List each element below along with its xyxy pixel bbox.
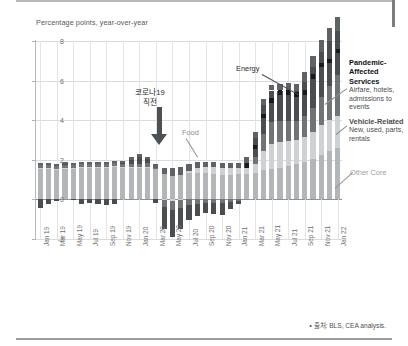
bar-segment-energy xyxy=(211,203,216,214)
bar-segment-pandemic-affected-services xyxy=(79,164,84,166)
bar-segment-energy xyxy=(220,203,225,215)
bar-Nov-19[interactable] xyxy=(120,41,125,239)
bar-segment-energy xyxy=(104,199,109,205)
bar-segment-vehicle-related xyxy=(54,169,59,170)
chart-subtitle: Percentage points, year-over-year xyxy=(36,18,148,27)
bar-segment-vehicle-related xyxy=(211,167,216,174)
bar-Oct-19[interactable] xyxy=(112,41,117,239)
x-axis-tick-label: May 21 xyxy=(274,225,281,246)
x-axis-tick-label: Nov 21 xyxy=(324,226,331,246)
bar-Nov-20[interactable] xyxy=(220,41,225,239)
bar-Jun-21[interactable] xyxy=(277,41,282,239)
bar-segment-other-core xyxy=(310,159,315,200)
bar-Jul-21[interactable] xyxy=(286,41,291,239)
bar-segment-food xyxy=(294,84,299,92)
bar-segment-food xyxy=(178,167,183,175)
bar-segment-vehicle-related xyxy=(120,167,125,168)
x-axis-tick-label: Jan 20 xyxy=(142,227,149,246)
bar-segment-food xyxy=(261,99,266,105)
bar-segment-energy xyxy=(269,91,274,123)
bar-segment-vehicle-related xyxy=(319,125,324,155)
bar-segment-food xyxy=(162,168,167,174)
x-axis-tick-label: Nov 19 xyxy=(125,226,132,246)
slide-vertical-mark xyxy=(392,0,395,27)
bar-segment-energy xyxy=(261,105,266,134)
bar-May-21[interactable] xyxy=(269,41,274,239)
legend-pandemic-title2: Services xyxy=(349,77,408,86)
bar-segment-food xyxy=(228,163,233,168)
bar-segment-energy xyxy=(95,199,100,204)
bar-segment-food xyxy=(145,157,150,159)
bar-segment-pandemic-affected-services xyxy=(120,164,125,167)
bar-Apr-21[interactable] xyxy=(261,41,266,239)
bar-segment-food xyxy=(302,72,307,81)
bar-Jan-19[interactable] xyxy=(38,41,43,239)
covid-annotation-line1: 코로나19 xyxy=(135,88,164,97)
bar-segment-pandemic-affected-services xyxy=(112,163,117,166)
bar-segment-pandemic-affected-services xyxy=(170,201,175,210)
bar-segment-other-core xyxy=(46,169,51,200)
bar-Jan-20[interactable] xyxy=(137,41,142,239)
bar-Sep-21[interactable] xyxy=(302,41,307,239)
total-marker xyxy=(319,63,324,68)
bar-segment-other-core xyxy=(294,164,299,200)
bar-Nov-21[interactable] xyxy=(319,41,324,239)
bar-segment-other-core xyxy=(87,168,92,200)
y-axis-tick-label: 0 xyxy=(38,196,64,203)
bar-segment-pandemic-affected-services xyxy=(104,164,109,167)
x-axis-tick-label: Mar 21 xyxy=(258,226,265,246)
bar-segment-vehicle-related xyxy=(95,167,100,168)
bar-Aug-19[interactable] xyxy=(95,41,100,239)
legend-vehicle-sub2: rentals xyxy=(349,135,408,144)
bar-segment-vehicle-related xyxy=(302,137,307,162)
bar-segment-other-core xyxy=(269,169,274,200)
bar-Dec-19[interactable] xyxy=(129,41,134,239)
bar-segment-other-core xyxy=(120,168,125,200)
bar-segment-vehicle-related xyxy=(327,120,332,151)
x-axis-tick-label: Jul 21 xyxy=(291,229,298,246)
bar-Jun-20[interactable] xyxy=(178,41,183,239)
bar-Oct-21[interactable] xyxy=(310,41,315,239)
y-axis-tick xyxy=(32,160,36,161)
bar-Jun-19[interactable] xyxy=(79,41,84,239)
bar-Aug-21[interactable] xyxy=(294,41,299,239)
chart-slide: Percentage points, year-over-year -20246… xyxy=(0,0,408,346)
bar-Oct-20[interactable] xyxy=(211,41,216,239)
bar-May-19[interactable] xyxy=(71,41,76,239)
bar-Jan-22[interactable] xyxy=(335,41,340,239)
bar-segment-vehicle-related xyxy=(87,167,92,168)
bar-segment-other-core xyxy=(244,174,249,200)
bar-segment-energy xyxy=(228,202,233,209)
bar-Sep-19[interactable] xyxy=(104,41,109,239)
bar-segment-pandemic-affected-services xyxy=(62,165,67,167)
bar-Jul-19[interactable] xyxy=(87,41,92,239)
bar-segment-vehicle-related xyxy=(104,167,109,168)
bar-segment-food xyxy=(71,163,76,165)
y-axis-tick xyxy=(32,120,36,121)
total-marker xyxy=(303,90,308,95)
bar-Feb-20[interactable] xyxy=(145,41,150,239)
bar-segment-pandemic-affected-services xyxy=(54,166,59,168)
bar-segment-vehicle-related xyxy=(38,168,43,169)
bar-Mar-19[interactable] xyxy=(54,41,59,239)
legend-vehicle-sub1: New, used, parts, xyxy=(349,126,408,135)
x-axis-tick-label: Mar 19 xyxy=(59,226,66,246)
bar-segment-other-core xyxy=(236,174,241,200)
bar-Aug-20[interactable] xyxy=(195,41,200,239)
bar-segment-other-core xyxy=(79,168,84,200)
bar-Dec-20[interactable] xyxy=(228,41,233,239)
bar-segment-other-core xyxy=(327,151,332,200)
bar-segment-pandemic-affected-services xyxy=(95,164,100,166)
bar-segment-other-core xyxy=(253,173,258,200)
bar-Dec-21[interactable] xyxy=(327,41,332,239)
bar-segment-other-core xyxy=(95,168,100,200)
bar-segment-food xyxy=(79,162,84,164)
bar-Apr-19[interactable] xyxy=(62,41,67,239)
bar-segment-other-core xyxy=(112,167,117,200)
bar-Sep-20[interactable] xyxy=(203,41,208,239)
y-axis-tick xyxy=(32,199,36,200)
bar-Feb-19[interactable] xyxy=(46,41,51,239)
bar-segment-vehicle-related xyxy=(286,141,291,166)
bar-segment-other-core xyxy=(302,162,307,200)
bar-May-20[interactable] xyxy=(170,41,175,239)
